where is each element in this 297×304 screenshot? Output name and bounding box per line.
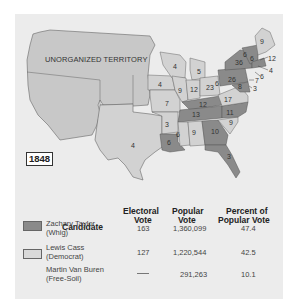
row-3-name: Martin Van Buren bbox=[46, 265, 104, 274]
us-election-map bbox=[0, 0, 297, 200]
row-2-party: (Democrat) bbox=[46, 252, 84, 261]
row-3-party: (Free-Soil) bbox=[46, 274, 81, 283]
state-electoral-vote-label: 6 bbox=[176, 131, 180, 138]
state-electoral-vote-label: 7 bbox=[255, 77, 259, 84]
state-electoral-vote-label: 4 bbox=[158, 81, 162, 88]
state-electoral-vote-label: 4 bbox=[131, 142, 135, 149]
state-electoral-vote-label: 4 bbox=[173, 63, 177, 70]
state-electoral-vote-label: 9 bbox=[229, 119, 233, 126]
state-electoral-vote-label: 6 bbox=[215, 80, 219, 87]
state-electoral-vote-label: 9 bbox=[178, 87, 182, 94]
row-1-party: (Whig) bbox=[46, 228, 68, 237]
state-electoral-vote-label: 23 bbox=[206, 84, 214, 91]
state-electoral-vote-label: 26 bbox=[228, 76, 236, 83]
row-2-popular: 1,220,544 bbox=[173, 248, 206, 257]
state-electoral-vote-label: 6 bbox=[167, 139, 171, 146]
state-electoral-vote-label: 12 bbox=[190, 86, 198, 93]
row-3-electoral-dash bbox=[137, 273, 149, 274]
state-electoral-vote-label: 3 bbox=[227, 153, 231, 160]
state-electoral-vote-label: 12 bbox=[268, 55, 276, 62]
legend-swatch-whig bbox=[23, 221, 42, 231]
row-3-popular: 291,263 bbox=[180, 270, 207, 279]
state-electoral-vote-label: 4 bbox=[269, 67, 273, 74]
state-electoral-vote-label: 12 bbox=[199, 101, 207, 108]
legend-swatch-democrat bbox=[23, 249, 42, 259]
state-electoral-vote-label: 10 bbox=[211, 128, 219, 135]
row-1-popular: 1,360,099 bbox=[173, 224, 206, 233]
state-electoral-vote-label: 13 bbox=[192, 111, 200, 118]
state-texas bbox=[95, 104, 165, 180]
state-electoral-vote-label: 8 bbox=[238, 83, 242, 90]
state-electoral-vote-label: 11 bbox=[226, 109, 233, 116]
row-2-name: Lewis Cass bbox=[46, 243, 84, 252]
state-electoral-vote-label: 9 bbox=[260, 38, 264, 45]
state-electoral-vote-label: 9 bbox=[192, 129, 196, 136]
row-1-percent: 47.4 bbox=[241, 224, 256, 233]
state-electoral-vote-label: 5 bbox=[197, 68, 201, 75]
state-electoral-vote-label: 6 bbox=[260, 73, 264, 80]
state-electoral-vote-label: 3 bbox=[165, 121, 169, 128]
state-electoral-vote-label: 6 bbox=[250, 55, 254, 62]
state-electoral-vote-label: 17 bbox=[224, 96, 232, 103]
territory-label: UNORGANIZED TERRITORY bbox=[45, 55, 148, 64]
state-maine bbox=[255, 28, 275, 55]
state-florida bbox=[205, 145, 240, 178]
row-1-name: Zachary Taylor bbox=[46, 219, 95, 228]
state-electoral-vote-label: 6 bbox=[243, 51, 247, 58]
state-electoral-vote-label: 7 bbox=[165, 100, 169, 107]
row-2-percent: 42.5 bbox=[241, 248, 256, 257]
state-electoral-vote-label: 3 bbox=[253, 85, 257, 92]
row-1-electoral: 163 bbox=[137, 224, 150, 233]
row-3-percent: 10.1 bbox=[241, 270, 256, 279]
row-2-electoral: 127 bbox=[137, 248, 150, 257]
year-label: 1848 bbox=[26, 152, 53, 166]
state-electoral-vote-label: 36 bbox=[235, 59, 243, 66]
